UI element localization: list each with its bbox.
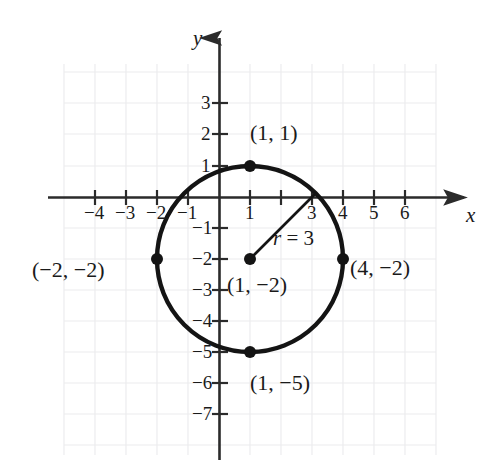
axes <box>48 38 464 460</box>
y-tick-label-3: 3 <box>201 92 211 114</box>
point-left <box>151 253 163 265</box>
x-tick-label--3: −3 <box>115 202 135 224</box>
point-bottom <box>244 346 256 358</box>
x-tick-label-3: 3 <box>307 202 317 224</box>
point-center <box>244 253 256 265</box>
point-label-center: (1, −2) <box>227 272 287 298</box>
y-tick-label--7: −7 <box>192 403 212 425</box>
y-axis-label: y <box>193 26 202 51</box>
x-tick-label-4: 4 <box>338 202 348 224</box>
circle-graph-figure: y x −4 −3 −2 −1 1 3 4 5 6 3 2 1 −1 −2 −3… <box>0 0 500 476</box>
y-tick-label--2: −2 <box>192 248 212 270</box>
plot-canvas <box>0 0 500 476</box>
y-tick-label--3: −3 <box>192 279 212 301</box>
point-label-right: (4, −2) <box>350 255 410 281</box>
x-tick-label--4: −4 <box>84 202 104 224</box>
y-tick-label-2: 2 <box>201 123 211 145</box>
y-tick-label--1: −1 <box>192 217 212 239</box>
radius-variable: r <box>273 226 281 250</box>
y-tick-label--6: −6 <box>192 372 212 394</box>
x-axis-label: x <box>466 203 475 228</box>
point-label-bottom: (1, −5) <box>250 370 310 396</box>
x-tick-label--2: −2 <box>146 202 166 224</box>
x-tick-label-5: 5 <box>369 202 379 224</box>
x-tick-label-1: 1 <box>245 202 255 224</box>
point-top <box>244 160 256 172</box>
point-label-left: (−2, −2) <box>32 257 104 283</box>
point-label-top: (1, 1) <box>250 120 298 146</box>
y-tick-label--5: −5 <box>192 341 212 363</box>
y-tick-label--4: −4 <box>192 310 212 332</box>
y-tick-label-1: 1 <box>201 155 211 177</box>
radius-value: = 3 <box>281 226 314 250</box>
x-tick-label-6: 6 <box>400 202 410 224</box>
radius-annotation: r = 3 <box>273 226 314 251</box>
point-right <box>337 253 349 265</box>
